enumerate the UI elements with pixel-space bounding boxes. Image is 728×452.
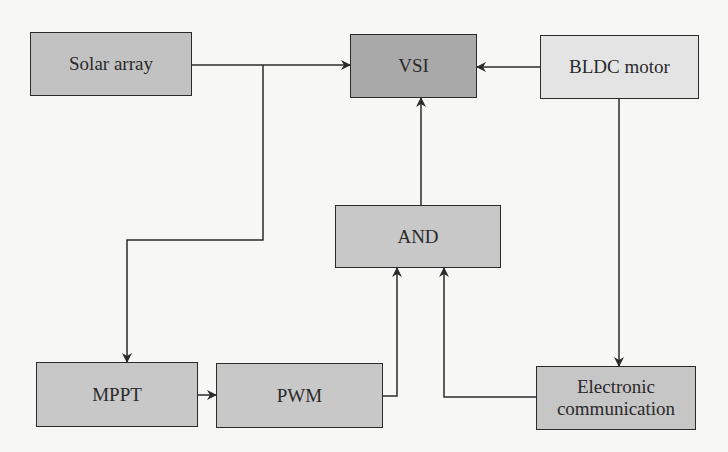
block-label: PWM: [277, 385, 322, 407]
arrow-ec-to-and: [444, 268, 536, 397]
block-mppt: MPPT: [36, 362, 198, 427]
arrow-pwm-to-and: [383, 268, 397, 396]
block-bldc-motor: BLDC motor: [540, 35, 699, 99]
block-label-line2: communication: [557, 398, 675, 420]
arrow-solar-to-mppt: [127, 65, 263, 362]
block-label: AND: [397, 226, 438, 248]
block-solar-array: Solar array: [30, 32, 192, 96]
block-label: Solar array: [69, 53, 153, 75]
block-label-line1: Electronic: [577, 376, 655, 398]
block-label: BLDC motor: [569, 56, 670, 78]
block-label: MPPT: [92, 384, 142, 406]
block-and: AND: [335, 205, 501, 268]
block-pwm: PWM: [216, 363, 383, 428]
block-diagram: Solar array VSI BLDC motor AND MPPT PWM …: [0, 0, 728, 452]
block-label: VSI: [398, 55, 429, 77]
block-electronic-communication: Electronic communication: [536, 366, 696, 430]
block-vsi: VSI: [350, 34, 477, 98]
